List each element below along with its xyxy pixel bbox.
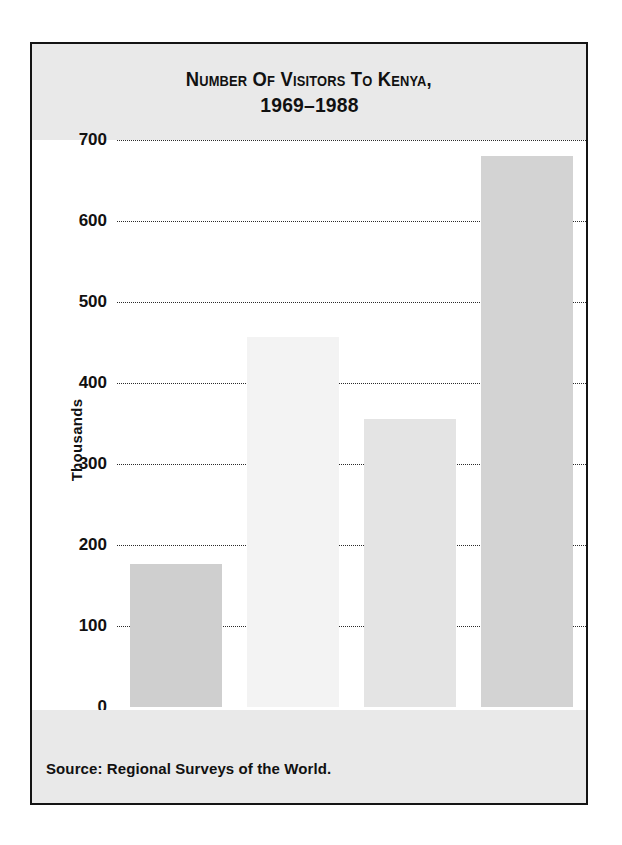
chart-title-line-1: Number of Visitors to Kenya,: [186, 68, 432, 90]
y-axis-tick-label: 500: [79, 292, 107, 312]
axes: Year 01002003004005006007001969197619821…: [117, 140, 586, 710]
gridline: [117, 140, 586, 141]
bar-1982: [364, 419, 456, 707]
y-axis-tick-label: 400: [79, 373, 107, 393]
chart-title-line-2: 1969–1988: [260, 93, 358, 117]
y-axis-tick-label: 200: [79, 535, 107, 555]
chart-title-banner: Number of Visitors to Kenya, 1969–1988: [32, 44, 586, 140]
bar-1969: [130, 564, 222, 707]
bar-1976: [247, 337, 339, 707]
chart-frame: Number of Visitors to Kenya, 1969–1988 T…: [30, 42, 588, 805]
y-axis-tick-label: 600: [79, 211, 107, 231]
bar-1988: [481, 156, 573, 707]
source-note: Source: Regional Surveys of the World.: [46, 760, 331, 777]
chart-figure: Number of Visitors to Kenya, 1969–1988 T…: [0, 0, 622, 845]
y-axis-tick-label: 700: [79, 130, 107, 150]
source-banner: Source: Regional Surveys of the World.: [32, 710, 586, 803]
y-axis-tick-label: 300: [79, 454, 107, 474]
plot-area: Thousands Year 0100200300400500600700196…: [32, 140, 586, 710]
y-axis-tick-label: 100: [79, 616, 107, 636]
